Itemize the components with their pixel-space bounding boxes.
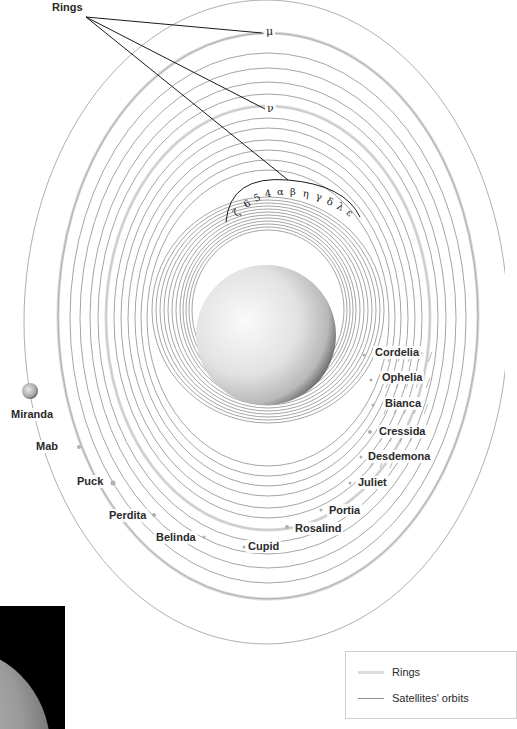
ring-label-beta: β xyxy=(290,187,296,197)
satellite-label-perdita: Perdita xyxy=(107,509,148,522)
rings-swatch-icon xyxy=(358,671,384,674)
ring-label-alpha: α xyxy=(277,187,284,197)
satellite-label-cordelia: Cordelia xyxy=(373,346,421,359)
legend-label-orbits: Satellites' orbits xyxy=(392,692,469,704)
legend-item-orbits: Satellites' orbits xyxy=(358,692,469,704)
satellite-label-mab: Mab xyxy=(34,440,60,453)
planet-uranus xyxy=(196,265,336,405)
ring-label-mu: μ xyxy=(264,26,275,38)
satellite-label-desdemona: Desdemona xyxy=(366,450,432,463)
satellite-label-juliet: Juliet xyxy=(356,476,389,489)
satellite-label-rosalind: Rosalind xyxy=(293,522,343,535)
satellite-label-bianca: Bianca xyxy=(383,397,423,410)
satellite-label-belinda: Belinda xyxy=(154,531,198,544)
satellite-label-cressida: Cressida xyxy=(377,425,427,438)
orbit-swatch-icon xyxy=(358,698,384,699)
satellite-label-miranda: Miranda xyxy=(9,408,55,421)
satellite-label-puck: Puck xyxy=(75,475,105,488)
rings-title-label: Rings xyxy=(50,1,85,14)
satellite-label-ophelia: Ophelia xyxy=(380,371,424,384)
legend-label-rings: Rings xyxy=(392,666,420,678)
moon-miranda xyxy=(22,383,38,399)
legend-item-rings: Rings xyxy=(358,666,420,678)
legend: Rings Satellites' orbits xyxy=(345,651,517,719)
satellite-label-portia: Portia xyxy=(327,504,362,517)
ring-label-nu: ν xyxy=(265,103,276,115)
satellite-label-cupid: Cupid xyxy=(246,540,281,553)
inset-planet-limb xyxy=(0,646,50,729)
inset-planet-photo xyxy=(0,606,65,729)
